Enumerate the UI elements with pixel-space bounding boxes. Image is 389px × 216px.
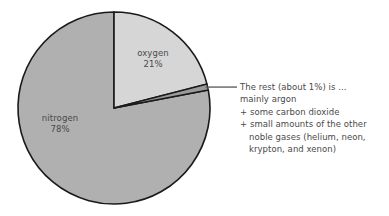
annotation-line-2: mainly argon <box>240 93 389 105</box>
slice-label-nitrogen-name: nitrogen <box>22 113 98 124</box>
annotation-line-6: krypton, and xenon) <box>240 143 389 155</box>
slice-label-nitrogen: nitrogen 78% <box>22 113 98 135</box>
slice-label-oxygen-percent: 21% <box>118 59 188 70</box>
slice-label-oxygen-name: oxygen <box>118 48 188 59</box>
annotation-line-4: + small amounts of the other <box>240 118 389 130</box>
pie-chart-figure: oxygen 21% nitrogen 78% The rest (about … <box>0 0 389 216</box>
annotation-line-1: The rest (about 1%) is ... <box>240 81 389 93</box>
annotation-line-3: + some carbon dioxide <box>240 106 389 118</box>
callout-annotation: The rest (about 1%) is ... mainly argon … <box>240 81 389 155</box>
annotation-line-5: noble gases (helium, neon, <box>240 131 389 143</box>
slice-label-oxygen: oxygen 21% <box>118 48 188 70</box>
slice-label-nitrogen-percent: 78% <box>22 124 98 135</box>
